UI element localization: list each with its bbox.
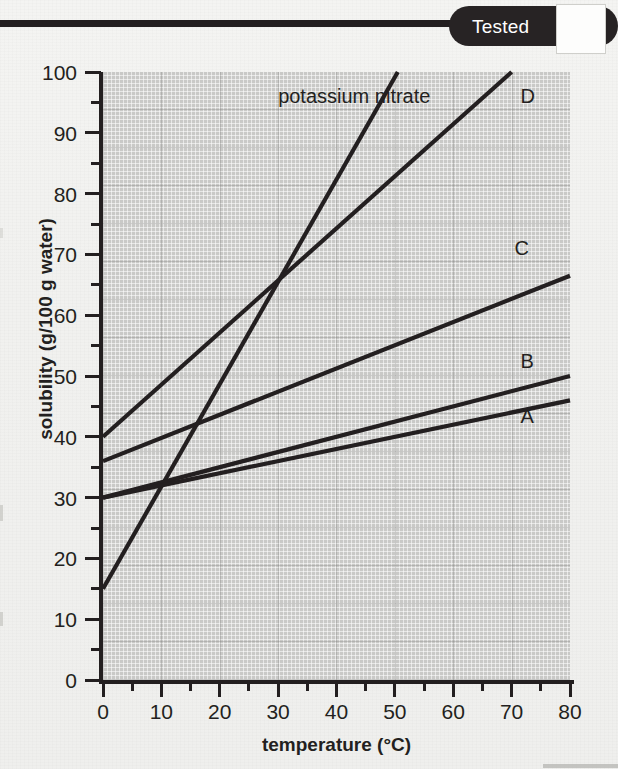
footer-bar [543,764,618,768]
series-label-c: C [515,238,529,258]
tested-tab-label: Tested [472,17,529,36]
series-label-a: A [520,406,533,426]
series-label-d: D [520,86,534,106]
series-label-b: B [520,351,533,371]
solubility-chart: 0102030405060708090100 01020304050607080… [0,46,618,746]
x-axis-title: temperature (°C) [103,734,570,756]
y-axis-title: solubility (g/100 g water) [35,179,57,479]
series-label-potassium-nitrate: potassium nitrate [278,86,430,106]
series-line [103,276,570,461]
data-lines [0,46,618,746]
series-line [103,72,398,589]
series-line [103,376,570,498]
series-line [103,400,570,497]
